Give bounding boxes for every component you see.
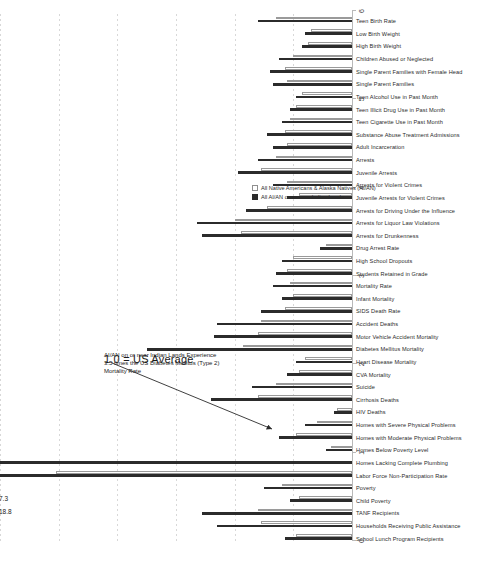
legend-swatch <box>252 194 258 200</box>
rotated-figure: 0123456 School Lunch Program RecipientsH… <box>0 0 479 577</box>
legend-label: All Native Americans & Alaska Natives (A… <box>261 185 376 191</box>
legend: All Native Americans & Alaska Natives (A… <box>252 185 376 203</box>
legend-swatch <box>252 185 258 191</box>
bar-value-label: 7.3 <box>0 495 8 502</box>
chart-canvas: 0123456 School Lunch Program RecipientsH… <box>0 0 479 577</box>
legend-label: All AI/AN on or near Indian Lands <box>261 194 344 200</box>
legend-item: All AI/AN on or near Indian Lands <box>252 194 376 200</box>
bar-value-label: 18.8 <box>0 508 12 515</box>
legend-item: All Native Americans & Alaska Natives (A… <box>252 185 376 191</box>
annotation-arrow <box>0 0 479 577</box>
plot-area: 0123456 School Lunch Program RecipientsH… <box>0 0 479 577</box>
